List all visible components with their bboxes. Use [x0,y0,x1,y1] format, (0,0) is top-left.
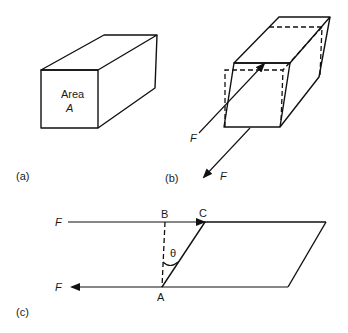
edge-ac [162,222,205,287]
point-c-label: C [199,207,207,219]
sheared-front-face [224,63,290,127]
force-label-upper: F [190,132,198,144]
sheared-top-face [234,17,330,63]
block-right-face [98,35,157,128]
theta-label: θ [170,247,176,259]
block-top-face [41,35,157,70]
original-front-outline [225,70,283,127]
panel-label-a: (a) [16,170,29,182]
right-edge [288,222,326,287]
force-label-bottom: F [55,281,63,293]
panel-label-b: (b) [165,172,178,184]
panel-b-sheared-block [224,17,330,127]
force-label-lower: F [220,170,228,182]
force-arrow-lower [204,128,250,177]
panel-a-block [41,35,157,128]
panel-c-side-view [68,222,326,287]
sheared-right-face [280,17,330,127]
area-label: Area [61,88,85,100]
area-symbol: A [65,102,73,114]
point-a-label: A [157,291,165,303]
point-b-label: B [161,208,168,220]
original-back-outline [269,27,322,75]
edge-ab-dashed [162,222,165,287]
force-arrow-upper [199,64,264,133]
force-label-top: F [55,216,63,228]
shear-diagram: Area A (a) F F (b) F F B C A θ (c) [0,0,348,333]
panel-label-c: (c) [16,306,29,318]
